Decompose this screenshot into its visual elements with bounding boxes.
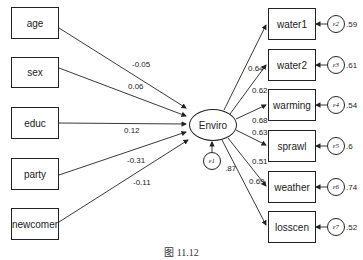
variance-e1: .87 — [225, 164, 236, 173]
variance-e2: .59 — [346, 20, 357, 29]
loading-losscen: 0.69 — [249, 177, 265, 186]
latent-enviro: Enviro — [189, 109, 237, 141]
predictor-party: party — [11, 158, 59, 190]
indicator-losscen: losscen — [268, 211, 316, 243]
predictor-age: age — [11, 7, 59, 39]
loading-weather: 0.51 — [252, 157, 268, 166]
error-e4: ε4 — [327, 96, 345, 114]
loading-water2: 0.62 — [252, 86, 268, 95]
indicator-sprawl: sprawl — [268, 130, 316, 162]
error-e7: ε7 — [327, 218, 345, 236]
coef-newcomer: -0.11 — [133, 178, 151, 187]
loading-sprawl: 0.63 — [252, 128, 268, 137]
figure-caption: 图 11.12 — [0, 244, 363, 259]
coef-age: -0.05 — [132, 60, 150, 69]
coef-party: -0.31 — [127, 156, 145, 165]
error-e2: ε2 — [327, 15, 345, 33]
variance-e5: .6 — [346, 142, 353, 151]
error-e3: ε3 — [327, 56, 345, 74]
variance-e3: .61 — [346, 61, 357, 70]
error-e6: ε6 — [327, 178, 345, 196]
variance-e4: .54 — [346, 101, 357, 110]
coef-sex: 0.06 — [128, 82, 144, 91]
error-e5: ε5 — [327, 137, 345, 155]
predictor-newcomer: newcomer — [11, 208, 59, 240]
indicator-water1: water1 — [268, 8, 316, 40]
predictor-educ: educ — [11, 107, 59, 139]
loading-warming: 0.68 — [252, 116, 268, 125]
indicator-water2: water2 — [268, 49, 316, 81]
error-e1: ε1 — [203, 152, 221, 170]
coef-educ: 0.12 — [124, 126, 140, 135]
predictor-sex: sex — [11, 57, 59, 88]
loading-water1: 0.64 — [248, 64, 264, 73]
variance-e7: .52 — [346, 223, 357, 232]
variance-e6: .74 — [346, 183, 357, 192]
indicator-weather: weather — [268, 171, 316, 203]
indicator-warming: warming — [268, 89, 316, 121]
